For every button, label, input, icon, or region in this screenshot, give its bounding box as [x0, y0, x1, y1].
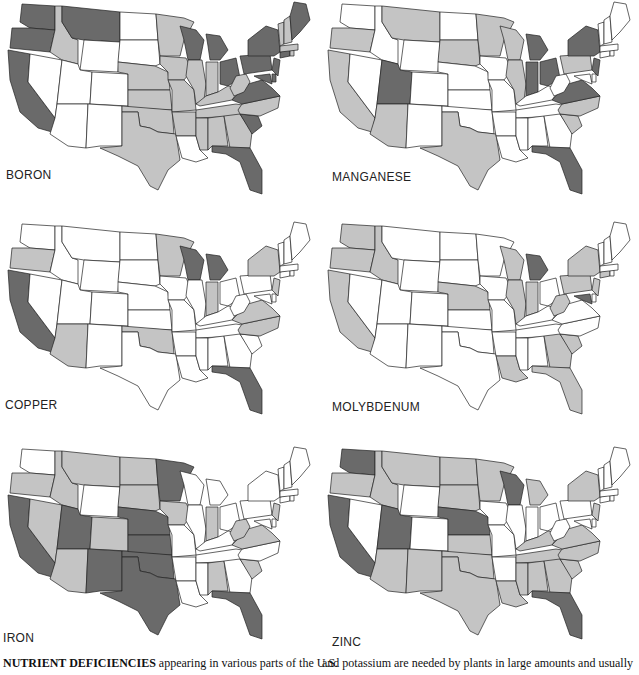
state-wa	[20, 4, 55, 30]
state-co	[90, 292, 128, 326]
state-de	[272, 74, 276, 82]
state-de	[272, 294, 276, 302]
state-ar	[172, 332, 196, 356]
state-wy	[80, 485, 120, 517]
map-panel-copper: COPPER	[0, 220, 320, 435]
state-co	[410, 292, 448, 326]
state-nm	[86, 549, 122, 593]
state-in	[206, 507, 218, 541]
state-me	[610, 222, 630, 260]
state-in	[526, 282, 538, 316]
state-nj	[272, 58, 280, 76]
state-wa	[340, 4, 375, 30]
state-nj	[272, 278, 280, 296]
state-nj	[592, 58, 600, 76]
state-nj	[592, 503, 600, 521]
state-me	[290, 222, 310, 260]
state-pa	[560, 499, 592, 519]
state-ny	[568, 26, 600, 56]
state-sd	[438, 260, 480, 286]
state-nm	[86, 324, 122, 368]
state-fl	[532, 146, 582, 194]
state-or	[10, 248, 55, 272]
state-de	[592, 74, 596, 82]
us-map-molybdenum	[320, 220, 639, 420]
state-wa	[20, 449, 55, 475]
map-panel-zinc: ZINC	[320, 445, 639, 660]
state-in	[206, 282, 218, 316]
state-de	[272, 519, 276, 527]
caption-left-text: appearing in various parts of the U.S.	[156, 656, 338, 670]
state-fl	[212, 591, 262, 639]
us-map-iron	[0, 445, 320, 645]
state-me	[290, 2, 310, 40]
state-nj	[272, 503, 280, 521]
state-wy	[80, 260, 120, 292]
state-nm	[406, 324, 442, 368]
state-ma	[600, 489, 618, 497]
state-ar	[172, 112, 196, 136]
state-or	[10, 28, 55, 52]
state-nm	[86, 104, 122, 148]
state-ma	[600, 264, 618, 272]
state-ma	[600, 44, 618, 52]
state-co	[90, 72, 128, 106]
state-me	[610, 2, 630, 40]
state-in	[526, 507, 538, 541]
map-label-copper: COPPER	[5, 398, 57, 412]
map-label-boron: BORON	[6, 168, 52, 182]
state-in	[526, 62, 538, 96]
state-or	[330, 28, 375, 52]
state-nd	[120, 232, 158, 260]
state-sd	[118, 40, 160, 66]
state-me	[290, 447, 310, 485]
state-mi	[526, 254, 548, 280]
state-wa	[340, 449, 375, 475]
state-pa	[560, 54, 592, 74]
us-map-zinc	[320, 445, 639, 645]
state-fl	[532, 366, 582, 414]
state-mi	[206, 254, 228, 280]
state-fl	[212, 366, 262, 414]
state-wy	[400, 40, 440, 72]
caption-right: and potassium are needed by plants in la…	[322, 656, 633, 671]
state-nd	[120, 12, 158, 40]
map-panel-boron: BORON	[0, 0, 320, 215]
state-nm	[406, 104, 442, 148]
map-label-iron: IRON	[3, 631, 34, 645]
state-ar	[492, 332, 516, 356]
state-me	[610, 447, 630, 485]
map-label-zinc: ZINC	[332, 635, 361, 649]
state-pa	[240, 54, 272, 74]
state-nd	[440, 12, 478, 40]
state-sd	[438, 40, 480, 66]
map-panel-iron: IRON	[0, 445, 320, 660]
map-panel-manganese: MANGANESE	[320, 0, 639, 215]
state-ar	[492, 557, 516, 581]
state-in	[206, 62, 218, 96]
state-pa	[240, 274, 272, 294]
state-nm	[406, 549, 442, 593]
state-nd	[440, 232, 478, 260]
state-co	[410, 72, 448, 106]
state-ma	[280, 44, 298, 52]
state-or	[10, 473, 55, 497]
state-ny	[248, 471, 280, 501]
map-label-molybdenum: MOLYBDENUM	[332, 400, 420, 414]
state-ny	[568, 471, 600, 501]
state-sd	[118, 485, 160, 511]
state-nd	[440, 457, 478, 485]
map-label-manganese: MANGANESE	[332, 170, 411, 184]
state-mi	[206, 479, 228, 505]
state-wa	[340, 224, 375, 250]
state-ar	[492, 112, 516, 136]
state-sd	[118, 260, 160, 286]
state-wa	[20, 224, 55, 250]
state-mi	[526, 479, 548, 505]
caption-left: NUTRIENT DEFICIENCIES appearing in vario…	[3, 656, 338, 671]
state-ny	[248, 246, 280, 276]
state-mi	[206, 34, 228, 60]
state-ar	[172, 557, 196, 581]
state-pa	[560, 274, 592, 294]
state-nj	[592, 278, 600, 296]
